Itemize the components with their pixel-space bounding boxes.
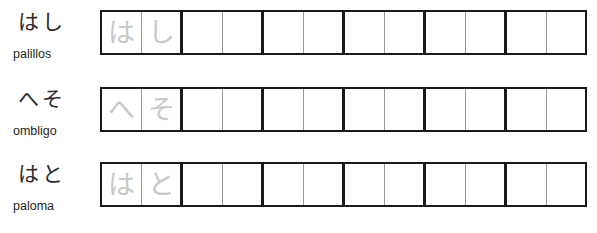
blank-cell[interactable] [183, 164, 222, 205]
cell-pair: へ そ [100, 87, 181, 132]
meaning-label: paloma [13, 199, 54, 214]
cell-pair: は と [100, 162, 181, 207]
cell-pair [343, 87, 424, 132]
trace-glyph: と [142, 170, 180, 200]
blank-cell[interactable] [264, 12, 303, 53]
trace-cell[interactable]: そ [141, 89, 180, 130]
trace-glyph: へ [102, 95, 141, 125]
blank-cell[interactable] [465, 89, 504, 130]
cell-pair: は し [100, 10, 181, 55]
cell-pair [343, 162, 424, 207]
row-label-group: へそ ombligo [0, 77, 96, 155]
hiragana-practice-worksheet: はし palillos は し [0, 0, 597, 233]
practice-grid: は と [100, 162, 587, 207]
cell-pair [181, 162, 262, 207]
blank-cell[interactable] [384, 164, 423, 205]
trace-cell[interactable]: は [102, 12, 141, 53]
trace-glyph: し [142, 18, 180, 48]
blank-cell[interactable] [303, 12, 342, 53]
blank-cell[interactable] [465, 164, 504, 205]
blank-cell[interactable] [345, 89, 384, 130]
blank-cell[interactable] [426, 164, 465, 205]
blank-cell[interactable] [507, 89, 546, 130]
kana-word: へそ [18, 86, 66, 112]
cell-pair [262, 87, 343, 132]
blank-cell[interactable] [264, 89, 303, 130]
kana-word: はし [18, 9, 66, 35]
blank-cell[interactable] [183, 89, 222, 130]
trace-glyph: は [102, 18, 141, 48]
blank-cell[interactable] [384, 89, 423, 130]
blank-cell[interactable] [546, 89, 585, 130]
blank-cell[interactable] [222, 164, 261, 205]
row-label-group: はし palillos [0, 0, 96, 78]
blank-cell[interactable] [345, 164, 384, 205]
meaning-label: palillos [13, 47, 51, 62]
cell-pair [424, 162, 505, 207]
cell-pair [505, 87, 587, 132]
blank-cell[interactable] [183, 12, 222, 53]
cell-pair [505, 10, 587, 55]
kana-word: はと [18, 161, 66, 187]
cell-pair [181, 87, 262, 132]
blank-cell[interactable] [507, 12, 546, 53]
cell-pair [181, 10, 262, 55]
cell-pair [424, 87, 505, 132]
blank-cell[interactable] [222, 12, 261, 53]
cell-pair [262, 162, 343, 207]
blank-cell[interactable] [222, 89, 261, 130]
blank-cell[interactable] [303, 164, 342, 205]
trace-glyph: そ [142, 95, 180, 125]
trace-glyph: は [102, 170, 141, 200]
practice-grid: は し [100, 10, 587, 55]
meaning-label: ombligo [13, 124, 57, 139]
blank-cell[interactable] [345, 12, 384, 53]
blank-cell[interactable] [507, 164, 546, 205]
cell-pair [262, 10, 343, 55]
blank-cell[interactable] [546, 164, 585, 205]
practice-grid: へ そ [100, 87, 587, 132]
row-label-group: はと paloma [0, 152, 96, 230]
trace-cell[interactable]: し [141, 12, 180, 53]
blank-cell[interactable] [264, 164, 303, 205]
blank-cell[interactable] [384, 12, 423, 53]
blank-cell[interactable] [465, 12, 504, 53]
practice-row: はし palillos は し [0, 0, 597, 78]
blank-cell[interactable] [426, 89, 465, 130]
cell-pair [424, 10, 505, 55]
blank-cell[interactable] [426, 12, 465, 53]
cell-pair [505, 162, 587, 207]
blank-cell[interactable] [546, 12, 585, 53]
trace-cell[interactable]: は [102, 164, 141, 205]
trace-cell[interactable]: へ [102, 89, 141, 130]
practice-row: へそ ombligo へ そ [0, 77, 597, 155]
blank-cell[interactable] [303, 89, 342, 130]
practice-row: はと paloma は と [0, 152, 597, 230]
trace-cell[interactable]: と [141, 164, 180, 205]
cell-pair [343, 10, 424, 55]
